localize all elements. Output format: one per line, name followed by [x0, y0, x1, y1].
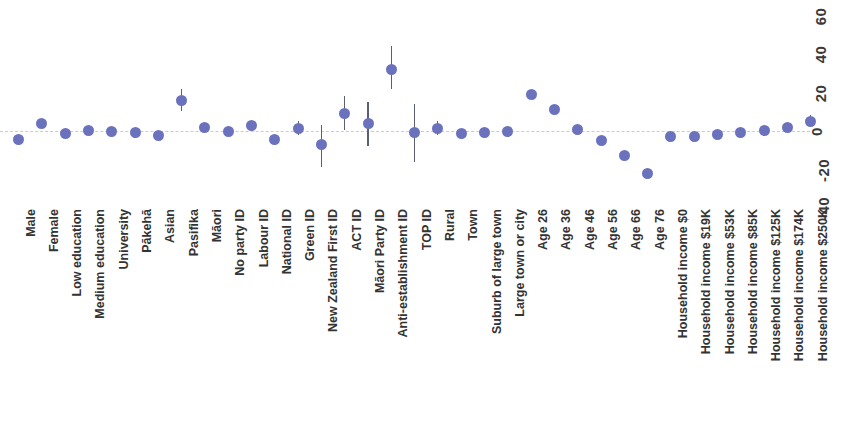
data-point-dot: [572, 124, 583, 135]
x-axis-tick-label: Age 56: [607, 205, 620, 417]
data-point-dot: [642, 168, 653, 179]
x-axis-tick-label: Town: [467, 205, 480, 417]
x-axis-tick-label: Household income $19K: [700, 205, 713, 417]
x-axis-tick-label: Household income $125K: [770, 205, 783, 417]
data-point-dot: [316, 139, 327, 150]
data-point-dot: [130, 127, 141, 138]
data-point-dot: [759, 125, 770, 136]
x-axis-tick-label: Age 76: [654, 205, 667, 417]
data-point-dot: [619, 150, 630, 161]
data-point-dot: [386, 64, 397, 75]
x-axis-tick-label: Medium education: [94, 205, 107, 417]
x-axis-tick-label: Household income $250K: [817, 205, 830, 417]
x-axis-tick-label: Pākehā: [141, 205, 154, 417]
data-point-dot: [479, 127, 490, 138]
coefficient-plot-figure: 6040200-20-40 MaleFemaleLow educationMed…: [0, 0, 852, 423]
data-point-dot: [665, 131, 676, 142]
data-point-dot: [432, 123, 443, 134]
data-point-dot: [526, 89, 537, 100]
x-axis-tick-label: Household income $0: [677, 205, 690, 417]
x-axis-tick-label: Household income $174K: [793, 205, 806, 417]
x-axis-tick-label: National ID: [281, 205, 294, 417]
data-point-dot: [293, 123, 304, 134]
data-point-dot: [106, 126, 117, 137]
x-axis-tick-label: Male: [25, 205, 38, 417]
data-point-dot: [13, 134, 24, 145]
x-axis-tick-label: Asian: [164, 205, 177, 417]
data-point-dot: [409, 127, 420, 138]
data-point-dot: [339, 108, 350, 119]
x-axis-tick-label: Māori: [211, 205, 224, 417]
data-point-dot: [83, 125, 94, 136]
x-axis-tick-label: Labour ID: [258, 205, 271, 417]
x-axis-tick-label: Green ID: [304, 205, 317, 417]
y-axis-tick-label: 20: [812, 85, 852, 102]
y-axis-tick-label: -20: [812, 162, 852, 179]
x-axis-tick-label: Household income $85K: [747, 205, 760, 417]
data-point-dot: [153, 130, 164, 141]
x-axis-tick-label: Low education: [71, 205, 84, 417]
data-point-dot: [549, 104, 560, 115]
x-axis-tick-label: Age 66: [630, 205, 643, 417]
data-point-dot: [363, 118, 374, 129]
data-point-dot: [689, 131, 700, 142]
data-point-dot: [223, 126, 234, 137]
data-point-dot: [596, 135, 607, 146]
x-axis: MaleFemaleLow educationMedium educationU…: [0, 211, 810, 423]
x-axis-tick-label: New Zealand First ID: [327, 205, 340, 417]
y-axis-tick-label: 0: [812, 123, 852, 140]
y-axis-tick-label: 60: [812, 8, 852, 25]
x-axis-tick-label: Age 36: [560, 205, 573, 417]
x-axis-tick-label: Suburb of large town: [491, 205, 504, 417]
x-axis-tick-label: Māori Party ID: [374, 205, 387, 417]
data-point-dot: [712, 129, 723, 140]
x-axis-tick-label: University: [118, 205, 131, 417]
zero-reference-line: [0, 131, 810, 132]
data-point-dot: [176, 95, 187, 106]
x-axis-tick-label: TOP ID: [421, 205, 434, 417]
data-point-dot: [735, 127, 746, 138]
plot-panel: [0, 0, 810, 211]
y-axis-tick-label: 40: [812, 46, 852, 63]
data-point-dot: [199, 122, 210, 133]
y-axis: 6040200-20-40: [812, 0, 852, 215]
data-point-dot: [60, 128, 71, 139]
data-point-dot: [246, 120, 257, 131]
data-point-dot: [782, 122, 793, 133]
data-point-dot: [456, 128, 467, 139]
x-axis-tick-label: Age 26: [537, 205, 550, 417]
x-axis-tick-label: Household income $53K: [724, 205, 737, 417]
x-axis-tick-label: Female: [48, 205, 61, 417]
data-point-dot: [36, 118, 47, 129]
data-point-dot: [502, 126, 513, 137]
x-axis-tick-label: Large town or city: [514, 205, 527, 417]
x-axis-tick-label: Age 46: [584, 205, 597, 417]
x-axis-tick-label: No party ID: [234, 205, 247, 417]
x-axis-tick-label: Pasifika: [188, 205, 201, 417]
x-axis-tick-label: Rural: [444, 205, 457, 417]
x-axis-tick-label: ACT ID: [351, 205, 364, 417]
x-axis-tick-label: Anti-establishment ID: [397, 205, 410, 417]
data-point-dot: [269, 134, 280, 145]
